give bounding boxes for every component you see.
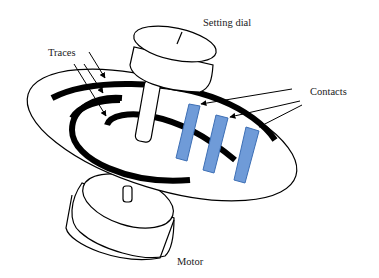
setting-dial-label: Setting dial bbox=[203, 17, 251, 28]
timer-diagram bbox=[0, 0, 379, 278]
motor-label: Motor bbox=[177, 256, 203, 267]
traces-label: Traces bbox=[48, 47, 76, 58]
motor-shaft bbox=[123, 186, 132, 202]
contacts-label: Contacts bbox=[310, 86, 347, 97]
